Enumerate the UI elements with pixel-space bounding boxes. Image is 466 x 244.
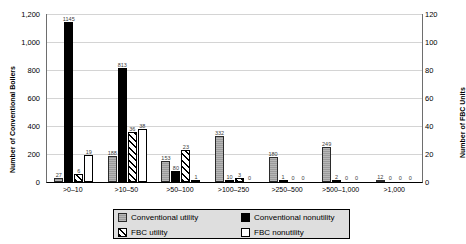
bar-group: 12000 [376, 14, 415, 182]
bar-value-label: 332 [215, 131, 224, 137]
plot-area: 2711456191888133638153802313321030180100… [46, 14, 423, 183]
legend-item: FBC nonutility [237, 226, 351, 240]
x-axis-category-label: >50–100 [166, 186, 193, 193]
bar-value-label: 6 [77, 169, 80, 175]
bar-value-label: 813 [118, 63, 127, 69]
bar-value-label: 0 [409, 176, 412, 182]
bar-group: 271145619 [54, 14, 93, 182]
bar: 19 [84, 155, 93, 182]
bar: 80 [171, 171, 180, 182]
legend-swatch-conv-nonutil [241, 213, 250, 222]
bar-group: 3321030 [215, 14, 254, 182]
legend-item: Conventional nonutility [237, 211, 351, 225]
bar-value-label: 36 [129, 127, 135, 133]
bar-value-label: 1145 [63, 17, 75, 23]
y-axis-right-tick-label: 80 [425, 66, 465, 75]
x-axis-category-label: >0–10 [63, 186, 83, 193]
bar-value-label: 0 [399, 176, 402, 182]
bar-group: 1888133638 [108, 14, 147, 182]
bar-value-label: 249 [322, 142, 331, 148]
bar: 36 [128, 132, 137, 182]
y-axis-right-tick-label: 100 [425, 38, 465, 47]
y-axis-left-tick-label: 1,000 [0, 38, 40, 47]
y-axis-right-tick-label: 40 [425, 122, 465, 131]
x-axis-category-label: >1,000 [383, 186, 405, 193]
bar: 1 [279, 180, 288, 182]
bar-group: 249200 [322, 14, 361, 182]
bar-value-label: 80 [173, 166, 179, 172]
bar: 27 [54, 178, 63, 182]
bar: 813 [118, 68, 127, 182]
legend-swatch-fbc-nonutil [241, 228, 250, 237]
bar-value-label: 0 [389, 176, 392, 182]
x-axis-category-label: >250–500 [271, 186, 302, 193]
bar-value-label: 3 [238, 173, 241, 179]
x-axis-category-label: >500–1,000 [322, 186, 359, 193]
y-axis-right-tick-label: 20 [425, 150, 465, 159]
legend-swatch-fbc-util [118, 228, 127, 237]
bar-value-label: 0 [248, 176, 251, 182]
y-axis-right-tick-label: 0 [425, 178, 465, 187]
bar-value-label: 0 [345, 176, 348, 182]
bar: 188 [108, 156, 117, 182]
bar: 2 [332, 180, 341, 182]
y-axis-left-tick-label: 800 [0, 66, 40, 75]
y-axis-left-tick-label: 400 [0, 122, 40, 131]
bar-value-label: 0 [302, 176, 305, 182]
bar: 1145 [64, 22, 73, 182]
legend-item: Conventional utility [114, 211, 237, 225]
bar: 23 [181, 150, 190, 182]
bar: 3 [235, 178, 244, 182]
bar-value-label: 23 [183, 145, 189, 151]
bar-value-label: 0 [355, 176, 358, 182]
bar-value-label: 2 [335, 175, 338, 181]
bar: 10 [225, 180, 234, 182]
y-axis-left-tick-label: 0 [0, 178, 40, 187]
legend-label: FBC utility [131, 228, 167, 237]
bar: 12 [376, 180, 385, 182]
bar-value-label: 19 [86, 150, 92, 156]
bar-value-label: 153 [161, 156, 170, 162]
bar: 153 [161, 161, 170, 182]
x-axis-category-label: >10–50 [115, 186, 139, 193]
chart-legend: Conventional utilityConventional nonutil… [113, 209, 350, 239]
bar-value-label: 12 [377, 175, 383, 181]
bar: 249 [322, 147, 331, 182]
y-axis-left-tick-label: 600 [0, 94, 40, 103]
bar: 6 [74, 174, 83, 182]
bar: 332 [215, 136, 224, 182]
legend-label: Conventional utility [131, 213, 198, 222]
legend-label: Conventional nonutility [254, 213, 335, 222]
bar-value-label: 188 [108, 151, 117, 157]
y-axis-left-tick-label: 1,200 [0, 10, 40, 19]
bar-value-label: 180 [268, 152, 277, 158]
bar: 38 [138, 129, 147, 182]
bar-value-label: 10 [226, 175, 232, 181]
bar: 1 [191, 180, 200, 182]
y-axis-left-tick-label: 200 [0, 150, 40, 159]
bar-value-label: 1 [194, 175, 197, 181]
y-axis-right-tick-label: 60 [425, 94, 465, 103]
bar-group: 15380231 [161, 14, 200, 182]
y-axis-right-tick-label: 120 [425, 10, 465, 19]
bar-value-label: 27 [56, 173, 62, 179]
legend-label: FBC nonutility [254, 228, 304, 237]
legend-item: FBC utility [114, 226, 237, 240]
bar: 180 [269, 157, 278, 182]
bar-value-label: 0 [292, 176, 295, 182]
legend-swatch-conv-util [118, 213, 127, 222]
bar-group: 180100 [269, 14, 308, 182]
x-axis-category-label: >100–250 [218, 186, 249, 193]
bar-value-label: 1 [282, 175, 285, 181]
bar-value-label: 38 [139, 124, 145, 130]
